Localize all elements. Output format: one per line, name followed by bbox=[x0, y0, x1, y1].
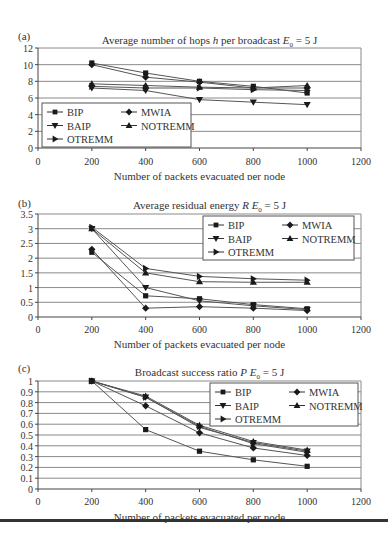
legend-item-bip: BIP bbox=[208, 220, 245, 231]
triangle-right-marker-icon bbox=[197, 423, 203, 430]
legend-item-notremm: NOTREMM bbox=[289, 401, 363, 412]
line-chart-hops: (a)Average number of hops h per broadcas… bbox=[0, 0, 388, 180]
y-tick-label: 0 bbox=[28, 484, 33, 495]
y-tick-label: 1.5 bbox=[21, 268, 34, 279]
y-tick-label: 0.8 bbox=[21, 398, 34, 409]
triangle-right-marker-icon bbox=[143, 265, 149, 272]
y-tick-label: 0.9 bbox=[21, 387, 34, 398]
series-mwia bbox=[88, 246, 311, 314]
square-marker-icon bbox=[89, 378, 94, 383]
y-tick-label: 1 bbox=[28, 283, 33, 294]
triangle-up-marker-icon bbox=[88, 225, 95, 231]
triangle-right-marker-icon bbox=[143, 394, 149, 401]
triangle-down-marker-icon bbox=[88, 378, 95, 384]
square-marker-icon bbox=[251, 302, 256, 307]
triangle-right-legend-icon bbox=[214, 249, 220, 256]
square-marker-icon bbox=[197, 449, 202, 454]
triangle-right-marker-icon bbox=[305, 449, 311, 456]
legend-item-bip: BIP bbox=[215, 387, 252, 398]
x-tick-label: 800 bbox=[246, 324, 261, 335]
legend-label: BAIP bbox=[228, 234, 252, 245]
legend-label: MWIA bbox=[141, 107, 172, 118]
series-notremm bbox=[88, 225, 311, 285]
triangle-down-marker-icon bbox=[142, 395, 149, 401]
legend: BIPMWIABAIPNOTREMMOTREMM bbox=[42, 103, 195, 147]
x-tick-label: 1000 bbox=[297, 496, 317, 507]
y-tick-label: 2 bbox=[28, 253, 33, 264]
triangle-down-marker-icon bbox=[304, 449, 311, 455]
legend-label: OTREMM bbox=[235, 414, 282, 425]
triangle-down-legend-icon bbox=[213, 236, 220, 242]
panel-label: (c) bbox=[18, 362, 31, 375]
x-tick-label: 1000 bbox=[297, 324, 317, 335]
y-tick-label: 10 bbox=[23, 60, 33, 71]
series-bip bbox=[89, 378, 310, 469]
triangle-right-marker-icon bbox=[89, 224, 95, 231]
diamond-marker-icon bbox=[196, 429, 203, 436]
triangle-down-marker-icon bbox=[250, 303, 257, 309]
y-tick-label: 0.5 bbox=[21, 297, 34, 308]
legend-item-mwia: MWIA bbox=[282, 220, 333, 231]
triangle-down-marker-icon bbox=[88, 226, 95, 232]
triangle-right-marker-icon bbox=[251, 275, 257, 282]
series-otremm bbox=[89, 224, 311, 284]
series-baip bbox=[88, 378, 311, 454]
x-tick-label: 0 bbox=[36, 156, 41, 167]
y-tick-label: 2 bbox=[28, 126, 33, 137]
triangle-up-marker-icon bbox=[88, 377, 95, 383]
y-tick-label: 0.7 bbox=[21, 408, 34, 419]
y-tick-label: 0 bbox=[28, 312, 33, 323]
series-otremm bbox=[89, 377, 311, 455]
square-marker-icon bbox=[251, 457, 256, 462]
triangle-right-marker-icon bbox=[305, 277, 311, 284]
legend: BIPMWIABAIPNOTREMMOTREMM bbox=[203, 216, 356, 260]
triangle-down-marker-icon bbox=[304, 307, 311, 313]
y-tick-label: 8 bbox=[28, 76, 33, 87]
legend-item-baip: BAIP bbox=[215, 401, 259, 412]
triangle-up-marker-icon bbox=[142, 393, 149, 399]
panel-label: (b) bbox=[18, 197, 31, 210]
square-legend-icon bbox=[221, 390, 226, 395]
legend-item-otremm: OTREMM bbox=[208, 247, 275, 258]
legend-item-baip: BAIP bbox=[208, 234, 252, 245]
diamond-marker-icon bbox=[304, 307, 311, 314]
legend: BIPMWIABAIPNOTREMMOTREMM bbox=[210, 383, 363, 426]
chart-title: Average number of hops h per broadcast E… bbox=[102, 34, 318, 49]
x-tick-label: 400 bbox=[138, 324, 153, 335]
series-baip bbox=[88, 226, 311, 313]
triangle-right-marker-icon bbox=[251, 440, 257, 447]
square-marker-icon bbox=[89, 250, 94, 255]
triangle-down-marker-icon bbox=[142, 285, 149, 291]
x-tick-label: 600 bbox=[192, 156, 207, 167]
legend-item-otremm: OTREMM bbox=[215, 414, 282, 425]
x-tick-label: 1000 bbox=[297, 156, 317, 167]
x-axis-label: Number of packets evacuated per node bbox=[114, 338, 285, 350]
triangle-up-marker-icon bbox=[250, 438, 257, 444]
square-marker-icon bbox=[143, 293, 148, 298]
legend-item-mwia: MWIA bbox=[289, 387, 340, 398]
chart-title: Average residual energy R E0 = 5 J bbox=[133, 199, 287, 214]
triangle-up-marker-icon bbox=[196, 278, 203, 284]
square-marker-icon bbox=[143, 427, 148, 432]
x-tick-label: 0 bbox=[36, 496, 41, 507]
diamond-marker-icon bbox=[250, 444, 257, 451]
legend-label: BIP bbox=[228, 220, 245, 231]
x-tick-label: 800 bbox=[246, 156, 261, 167]
series-bip bbox=[89, 250, 310, 312]
legend-label: NOTREMM bbox=[302, 234, 356, 245]
triangle-up-legend-icon bbox=[294, 402, 301, 408]
y-tick-label: 0.4 bbox=[21, 441, 34, 452]
y-tick-label: 0.6 bbox=[21, 419, 34, 430]
x-tick-label: 200 bbox=[84, 324, 99, 335]
triangle-up-legend-icon bbox=[287, 235, 294, 241]
legend-label: BAIP bbox=[67, 121, 91, 132]
triangle-up-marker-icon bbox=[142, 269, 149, 275]
triangle-right-legend-icon bbox=[221, 416, 227, 423]
legend-label: BIP bbox=[235, 387, 252, 398]
diamond-marker-icon bbox=[142, 305, 149, 312]
y-tick-label: 4 bbox=[28, 110, 33, 121]
x-tick-label: 0 bbox=[36, 324, 41, 335]
y-tick-label: 0.3 bbox=[21, 452, 34, 463]
triangle-up-marker-icon bbox=[304, 279, 311, 285]
x-tick-label: 600 bbox=[192, 324, 207, 335]
